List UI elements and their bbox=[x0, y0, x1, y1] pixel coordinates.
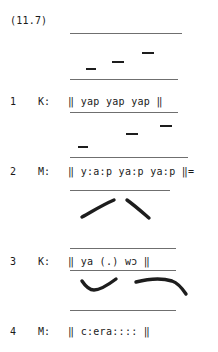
turn-utterance: ‖ y:a:p ya:p ya:p ‖= bbox=[68, 166, 194, 177]
transcript-turn: 4 M: ‖ c:era:::: ‖ bbox=[0, 326, 218, 342]
staff-underline-turn1 bbox=[70, 112, 178, 113]
staff-top-turn4 bbox=[70, 310, 176, 311]
transcript-turn: 3 K: ‖ ya (.) wɔ ‖ bbox=[0, 256, 218, 272]
turn-number: 4 bbox=[10, 326, 24, 337]
staff-bottom-turn1 bbox=[70, 79, 178, 80]
transcript-turn: 1 K: ‖ yap yap yap ‖ bbox=[0, 96, 218, 112]
turn-number: 1 bbox=[10, 96, 24, 107]
staff-top-turn1 bbox=[70, 33, 182, 34]
turn-number: 2 bbox=[10, 166, 24, 177]
tone-dash-mid-turn2 bbox=[126, 133, 138, 135]
transcript-turn: 2 M: ‖ y:a:p ya:p ya:p ‖= bbox=[0, 166, 218, 182]
tone-dash-low-turn2 bbox=[78, 146, 88, 148]
staff-bottom-turn3 bbox=[70, 248, 176, 249]
turn-utterance: ‖ ya (.) wɔ ‖ bbox=[68, 256, 150, 267]
example-number-label: (11.7) bbox=[10, 15, 47, 26]
tone-dash-high-turn2 bbox=[160, 125, 172, 127]
turn-utterance: ‖ yap yap yap ‖ bbox=[68, 96, 163, 107]
pitch-stroke-dip-rise-turn3 bbox=[80, 276, 126, 296]
staff-bottom-turn2 bbox=[70, 157, 188, 158]
turn-number: 3 bbox=[10, 256, 24, 267]
turn-speaker: M: bbox=[38, 166, 50, 177]
staff-top-turn3 bbox=[70, 190, 170, 191]
turn-speaker: K: bbox=[38, 96, 50, 107]
tone-dash-mid-turn1 bbox=[112, 61, 124, 63]
turn-speaker: M: bbox=[38, 326, 50, 337]
tone-dash-low-turn1 bbox=[86, 68, 96, 70]
tone-dash-high-turn1 bbox=[142, 52, 154, 54]
turn-speaker: K: bbox=[38, 256, 50, 267]
transcript-excerpt: (11.7) 1 K: ‖ yap yap yap ‖ 2 M: ‖ y:a:p… bbox=[0, 0, 218, 352]
pitch-stroke-rising-turn2 bbox=[80, 198, 122, 220]
pitch-stroke-falling-turn2 bbox=[124, 198, 164, 220]
pitch-stroke-level-fall-turn3 bbox=[134, 276, 190, 298]
turn-utterance: ‖ c:era:::: ‖ bbox=[68, 326, 150, 337]
